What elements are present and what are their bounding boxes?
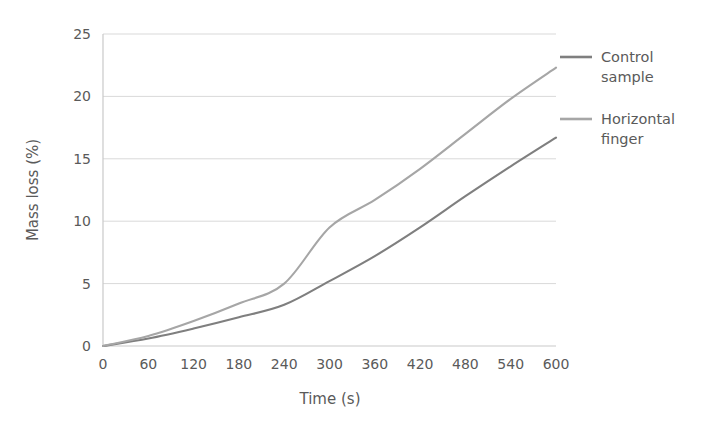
- x-tick-label: 0: [99, 356, 108, 372]
- x-tick-label: 120: [180, 356, 207, 372]
- x-tick-label: 360: [361, 356, 388, 372]
- y-tick-label: 15: [73, 151, 91, 167]
- y-axis-title: Mass loss (%): [24, 139, 42, 241]
- chart-container: 0510152025 06012018024030036042048054060…: [0, 0, 710, 431]
- x-tick-label: 300: [316, 356, 343, 372]
- x-axis-title: Time (s): [299, 390, 361, 408]
- x-tick-label: 540: [497, 356, 524, 372]
- y-tick-label: 0: [82, 338, 91, 354]
- x-tick-label: 600: [543, 356, 570, 372]
- y-tick-label: 5: [82, 276, 91, 292]
- x-tick-label: 240: [271, 356, 298, 372]
- y-tick-label: 10: [73, 213, 91, 229]
- y-tick-label: 20: [73, 88, 91, 104]
- legend-label-control-sample: Control: [601, 49, 653, 65]
- x-tick-label: 480: [452, 356, 479, 372]
- mass-loss-line-chart: 0510152025 06012018024030036042048054060…: [0, 0, 710, 431]
- legend-label-control-sample-line2: sample: [601, 69, 654, 85]
- x-tick-label: 60: [139, 356, 157, 372]
- legend-label-horizontal-finger-line2: finger: [601, 131, 643, 147]
- x-tick-label: 180: [226, 356, 253, 372]
- y-tick-label: 25: [73, 26, 91, 42]
- x-tick-label: 420: [407, 356, 434, 372]
- legend-label-horizontal-finger: Horizontal: [601, 111, 675, 127]
